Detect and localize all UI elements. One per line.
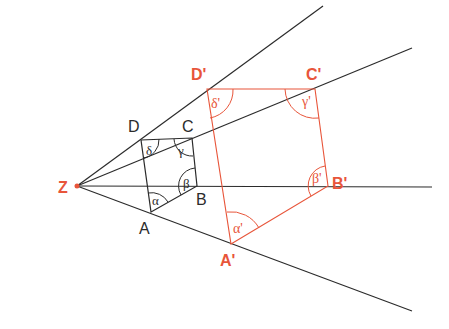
label-alpha: α [152,193,159,208]
label-B: B [196,191,207,208]
label-D-prime: D' [191,66,206,83]
center-point-Z [75,184,80,189]
label-alpha-prime: α' [233,221,243,236]
homothety-diagram: Z A B C D α β γ δ A' B' C' D' α' β' γ' δ… [0,0,449,329]
label-delta: δ [146,143,152,158]
ray-through-A [77,186,412,311]
angle-arc-alpha-prime [227,212,259,228]
label-beta: β [183,176,190,191]
label-A-prime: A' [220,252,235,269]
label-delta-prime: δ' [211,96,220,111]
ray-through-B [77,186,432,187]
label-gamma-prime: γ' [301,94,311,109]
ray-through-C [77,48,412,186]
label-A: A [139,220,150,237]
label-beta-prime: β' [312,171,322,186]
label-gamma: γ [177,143,184,158]
label-D: D [128,118,140,135]
label-C: C [182,118,194,135]
label-B-prime: B' [332,175,347,192]
quad-A'B'C'D' [207,89,328,244]
label-Z: Z [58,179,68,196]
label-C-prime: C' [306,66,321,83]
